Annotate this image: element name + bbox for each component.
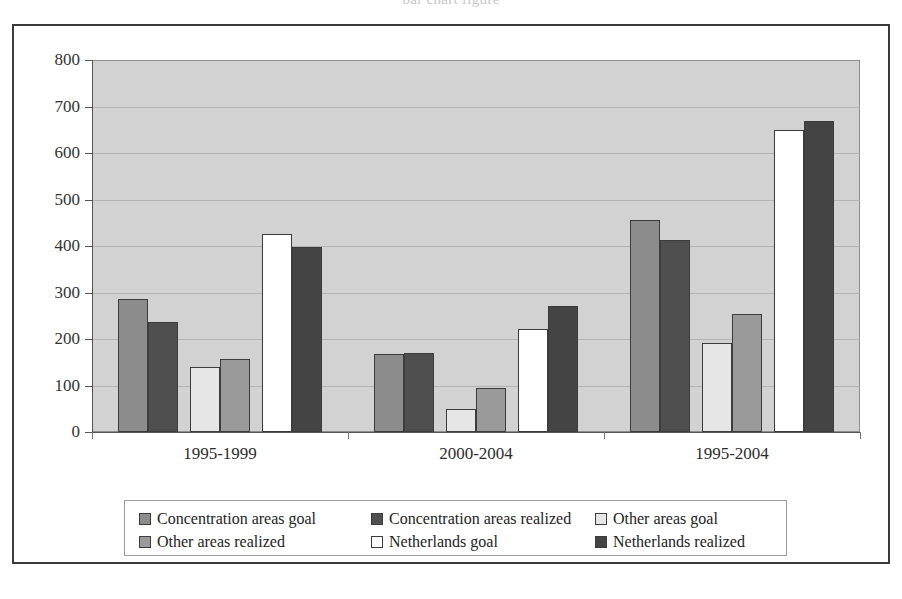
y-axis-tick (85, 60, 92, 61)
y-axis-tick-label: 700 (20, 98, 80, 115)
legend-item[interactable]: Concentration areas goal (139, 511, 316, 527)
y-axis-tick-label: 800 (20, 51, 80, 68)
clipped-title-strip: bar chart figure (0, 0, 902, 14)
legend-swatch-icon (371, 513, 383, 525)
legend-label: Netherlands goal (389, 534, 498, 550)
legend-swatch-icon (595, 536, 607, 548)
bar (292, 247, 322, 432)
y-axis-tick (85, 432, 92, 433)
bar (220, 359, 250, 432)
x-axis-line (92, 432, 860, 433)
y-axis-tick-label: 100 (20, 377, 80, 394)
figure-frame: 0100200300400500600700800 1995-19992000-… (12, 24, 890, 564)
legend-label: Concentration areas goal (157, 511, 316, 527)
legend-item[interactable]: Netherlands goal (371, 534, 498, 550)
bar (660, 240, 690, 432)
bar (404, 353, 434, 432)
legend-item[interactable]: Other areas realized (139, 534, 285, 550)
gridline (92, 293, 860, 294)
legend-item[interactable]: Other areas goal (595, 511, 718, 527)
bar (732, 314, 762, 432)
y-axis-tick (85, 200, 92, 201)
bar (476, 388, 506, 432)
x-axis-category-label: 1995-2004 (604, 444, 860, 464)
x-axis-separator (604, 432, 605, 439)
legend-swatch-icon (371, 536, 383, 548)
legend-label: Other areas realized (157, 534, 285, 550)
y-axis-tick-label: 400 (20, 237, 80, 254)
bar (630, 220, 660, 432)
gridline (92, 107, 860, 108)
figure-title: bar chart figure (402, 0, 499, 8)
legend-item[interactable]: Concentration areas realized (371, 511, 571, 527)
y-axis-tick-label: 500 (20, 191, 80, 208)
y-axis-tick (85, 246, 92, 247)
y-axis-tick-label: 0 (20, 423, 80, 440)
legend-label: Other areas goal (613, 511, 718, 527)
bar (518, 329, 548, 432)
bar (374, 354, 404, 432)
bar (118, 299, 148, 432)
bar (548, 306, 578, 432)
bar (804, 121, 834, 432)
gridline (92, 200, 860, 201)
x-axis-category-label: 1995-1999 (92, 444, 348, 464)
gridline (92, 246, 860, 247)
y-axis-line (92, 60, 93, 433)
y-axis-tick (85, 107, 92, 108)
x-axis-separator (92, 432, 93, 439)
legend-item[interactable]: Netherlands realized (595, 534, 745, 550)
chart-area: 0100200300400500600700800 1995-19992000-… (14, 26, 892, 486)
y-axis-tick-label: 300 (20, 284, 80, 301)
bar (774, 130, 804, 432)
gridline (92, 153, 860, 154)
bar (262, 234, 292, 432)
y-axis-tick (85, 153, 92, 154)
bar (190, 367, 220, 432)
y-axis-tick (85, 339, 92, 340)
legend-label: Concentration areas realized (389, 511, 571, 527)
legend-swatch-icon (139, 536, 151, 548)
x-axis-separator (348, 432, 349, 439)
y-axis-tick-label: 600 (20, 144, 80, 161)
legend-swatch-icon (139, 513, 151, 525)
bar (446, 409, 476, 432)
legend-label: Netherlands realized (613, 534, 745, 550)
legend-swatch-icon (595, 513, 607, 525)
y-axis-tick (85, 293, 92, 294)
x-axis-category-label: 2000-2004 (348, 444, 604, 464)
bar (702, 343, 732, 432)
bar (148, 322, 178, 432)
legend: Concentration areas goalConcentration ar… (124, 500, 787, 556)
y-axis-labels: 0100200300400500600700800 (14, 26, 80, 486)
y-axis-tick (85, 386, 92, 387)
x-axis-separator (860, 432, 861, 439)
y-axis-tick-label: 200 (20, 330, 80, 347)
